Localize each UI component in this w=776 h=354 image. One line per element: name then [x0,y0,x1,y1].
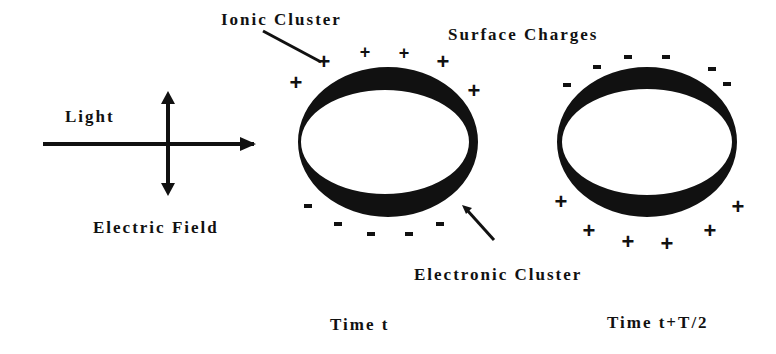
svg-text:+: + [622,229,635,254]
svg-text:+: + [555,189,568,214]
svg-text:+: + [318,49,331,74]
electric-field-label: Electric Field [93,218,219,237]
svg-text:+: + [360,42,371,62]
ionic-cluster-pointer [263,31,321,62]
svg-text:+: + [661,231,674,256]
svg-text:+: + [437,49,450,74]
plasmon-diagram: + + + + + + + + + + + + Ionic Cluster Su… [0,0,776,354]
nanoparticle-ring-time-t [298,67,478,217]
svg-text:+: + [732,194,745,219]
svg-text:+: + [290,70,303,95]
svg-text:+: + [468,78,481,103]
electronic-cluster-pointer [462,205,494,240]
surface-charges-label: Surface Charges [448,25,598,44]
ionic-cluster-label: Ionic Cluster [221,10,342,29]
time-t-label: Time t [330,315,389,334]
electronic-cluster-label: Electronic Cluster [414,265,582,284]
svg-text:+: + [704,218,717,243]
svg-text:+: + [583,218,596,243]
time-t-half-period-label: Time t+T/2 [607,313,709,332]
nanoparticle-ring-time-t-half [557,67,737,217]
light-label: Light [65,107,115,126]
svg-text:+: + [399,43,410,63]
